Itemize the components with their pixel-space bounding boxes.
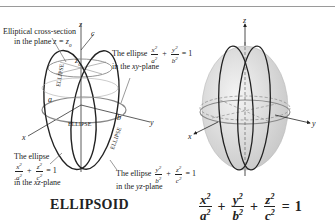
- exp: 2: [179, 176, 182, 181]
- equals: =: [282, 199, 290, 215]
- param-label-c: c: [91, 29, 95, 38]
- yz-ellipse-prefix: The ellipse: [116, 169, 151, 178]
- exp: 2: [39, 162, 42, 167]
- axis-label-x-right: x: [188, 132, 192, 141]
- exp: 2: [270, 192, 274, 201]
- exp: 2: [155, 45, 158, 50]
- exp: 2: [175, 56, 178, 61]
- exp: 2: [19, 162, 22, 167]
- right-shaded-ellipsoid: [194, 24, 310, 176]
- cross-section-prefix: in the plane: [14, 37, 53, 46]
- exp: 2: [271, 208, 275, 217]
- exp: 2: [239, 192, 243, 201]
- exp: 2: [159, 176, 162, 181]
- param-label-z0: z0: [75, 56, 81, 69]
- xz-ellipse-prefix: The ellipse: [14, 152, 49, 161]
- ellipse-tag-horizontal: ELLIPSE: [68, 120, 91, 129]
- yz-frac-2: z2c2: [175, 164, 183, 185]
- xz-plane-label: in the xz-plane: [14, 178, 61, 187]
- exp: 2: [179, 165, 182, 170]
- rhs: = 1: [185, 169, 196, 178]
- axis-label-z-right: z: [243, 16, 246, 25]
- axis-label-z-left: z: [79, 20, 82, 29]
- xy-plane-label: in the xy-plane: [112, 62, 159, 71]
- plus: +: [218, 199, 226, 215]
- axis-label-y-left: y: [150, 118, 154, 127]
- eq-frac-1: x2a2: [199, 191, 212, 222]
- plus: +: [250, 199, 258, 215]
- figure-title: ELLIPSOID: [50, 197, 129, 213]
- exp: 2: [159, 165, 162, 170]
- param-label-b: b: [117, 113, 121, 122]
- rhs: = 1: [182, 49, 193, 58]
- cross-section-plane: z = z: [53, 37, 69, 46]
- cross-section-label-line1: Elliptical cross-section: [3, 27, 76, 36]
- exp: 2: [155, 56, 158, 61]
- yz-plane-label: in the yz-plane: [116, 182, 163, 191]
- eq-frac-2: y2b2: [231, 191, 244, 222]
- exp: 2: [207, 192, 211, 201]
- axis-label-x-left: x: [22, 133, 26, 142]
- exp: 2: [207, 208, 211, 217]
- xy-ellipse-prefix: The ellipse: [112, 49, 147, 58]
- xy-frac-2: y2b2: [171, 44, 179, 65]
- cross-section-sub: 0: [69, 43, 72, 48]
- axis-label-y-right: y: [312, 119, 316, 128]
- rhs: = 1: [46, 166, 57, 175]
- rhs: 1: [295, 199, 302, 215]
- exp: 2: [175, 45, 178, 50]
- eq-frac-3: z2c2: [264, 191, 276, 222]
- plus: +: [27, 166, 32, 175]
- param-label-a: a: [48, 95, 52, 104]
- cross-section-label-line2: in the plane z = z0: [14, 37, 71, 50]
- exp: 2: [239, 208, 243, 217]
- ellipsoid-equation: x2a2 + y2b2 + z2c2 = 1: [198, 191, 302, 222]
- plus: +: [162, 49, 167, 58]
- plus: +: [166, 169, 171, 178]
- z0-sub: 0: [78, 62, 81, 67]
